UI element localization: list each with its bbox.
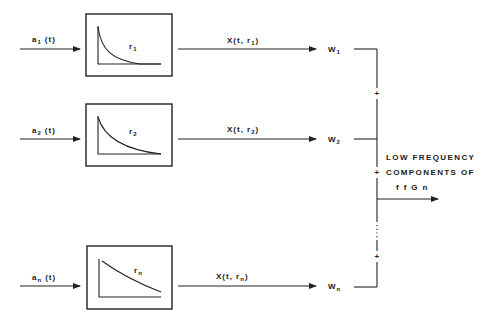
output-label-n: X(t, rn): [216, 272, 249, 282]
output-description-line-1: LOW FREQUENCY: [386, 153, 475, 162]
channel-n: an(t) rn X(t, rn) Wn: [20, 246, 377, 309]
summing-bus: + + + LOW FREQUENCY COMPONENTS OF f f G …: [375, 49, 476, 287]
plus-sign-n: +: [375, 252, 380, 261]
weight-label-2: W2: [328, 135, 341, 145]
input-label-n: an(t): [32, 273, 56, 283]
output-description-line-2: COMPONENTS OF: [386, 168, 475, 177]
channel-1: a1(t) r1 X(t, r1) W1: [20, 14, 377, 76]
plus-sign-2: +: [375, 168, 380, 177]
input-label-1: a1(t): [32, 35, 56, 45]
output-label-2: X(t, r2): [227, 125, 259, 135]
output-label-1: X(t, r1): [227, 36, 259, 46]
weight-label-1: W1: [328, 45, 341, 55]
plus-sign-1: +: [375, 89, 380, 98]
weight-label-n: Wn: [328, 282, 341, 292]
block-diagram: a1(t) r1 X(t, r1) W1 a2(t) r2 X(t, r2) W…: [0, 0, 484, 322]
output-description-line-3: f f G n: [396, 183, 429, 192]
input-label-2: a2(t): [32, 126, 56, 136]
channel-2: a2(t) r2 X(t, r2) W2: [20, 104, 377, 166]
